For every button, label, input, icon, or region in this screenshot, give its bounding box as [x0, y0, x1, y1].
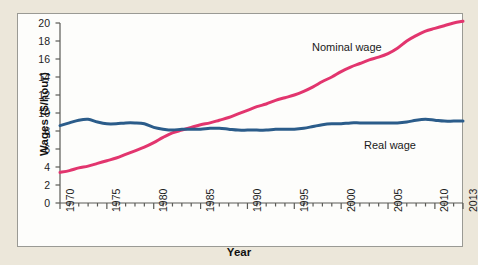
x-tick-label: 1990	[252, 189, 263, 212]
x-tick-label: 2000	[346, 189, 357, 212]
x-tick-label: 2005	[393, 189, 404, 212]
series-label-real-wage: Real wage	[364, 139, 416, 151]
x-axis-title: Year	[0, 246, 478, 258]
axis-lines	[60, 23, 463, 203]
y-tick-label: 0	[30, 198, 50, 209]
y-axis-title: Wages ($/hour)	[38, 54, 50, 174]
axis-ticks	[56, 23, 464, 209]
series-line-real-wage	[60, 119, 463, 130]
x-tick-label: 1995	[299, 189, 310, 212]
x-tick-label: 1975	[111, 189, 122, 212]
x-tick-label: 1985	[205, 189, 216, 212]
x-tick-label: 2010	[439, 189, 450, 212]
y-tick-label: 18	[30, 36, 50, 47]
x-tick-label: 1980	[158, 189, 169, 212]
y-tick-label: 2	[30, 180, 50, 191]
x-tick-label: 1970	[65, 189, 76, 212]
y-tick-label: 20	[30, 18, 50, 29]
wage-chart-figure: 02468101214161820 1970197519801985199019…	[0, 0, 478, 265]
x-tick-label: 2013	[468, 189, 478, 212]
series-label-nominal-wage: Nominal wage	[312, 41, 382, 53]
chart-plot-area	[0, 0, 478, 265]
